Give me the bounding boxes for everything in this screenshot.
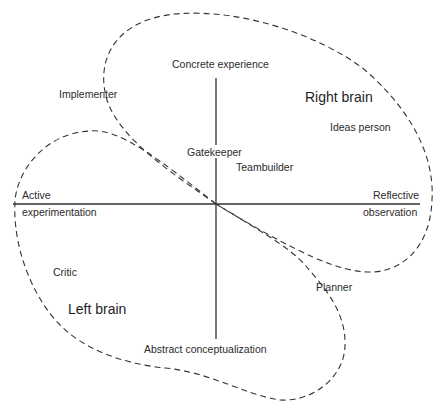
role-label-ideas-person: Ideas person <box>330 121 391 133</box>
role-label-teambuilder: Teambuilder <box>236 161 293 173</box>
axis-label-concrete-experience: Concrete experience <box>172 58 269 70</box>
axis-label-observation: observation <box>363 206 417 218</box>
role-label-critic: Critic <box>53 266 77 278</box>
region-label-right-brain: Right brain <box>305 89 373 105</box>
axis-label-abstract-conceptualization: Abstract conceptualization <box>144 343 267 355</box>
role-label-implementer: Implementer <box>59 88 117 100</box>
region-label-left-brain: Left brain <box>68 301 126 317</box>
role-label-planner: Planner <box>316 281 352 293</box>
axis-label-experimentation: experimentation <box>22 206 97 218</box>
axis-label-reflective: Reflective <box>373 189 419 201</box>
axis-label-active: Active <box>22 189 51 201</box>
role-label-gatekeeper: Gatekeeper <box>187 146 242 158</box>
right-brain-boundary <box>104 13 433 272</box>
